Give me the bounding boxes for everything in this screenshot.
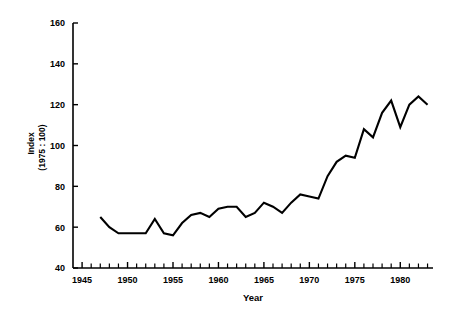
x-tick-label-1965: 1965 <box>254 275 274 285</box>
x-axis: 19451950195519601965197019751980 <box>72 262 433 285</box>
data-series-group <box>100 97 427 236</box>
x-tick-label-1955: 1955 <box>163 275 183 285</box>
x-tick-label-1970: 1970 <box>299 275 319 285</box>
x-tick-label-1950: 1950 <box>118 275 138 285</box>
x-tick-label-1975: 1975 <box>345 275 365 285</box>
y-axis: 406080100120140160 <box>50 18 78 273</box>
y-tick-label-160: 160 <box>50 18 65 28</box>
y-axis-title-line1: Index <box>26 132 36 154</box>
x-tick-label-1945: 1945 <box>72 275 92 285</box>
y-tick-label-80: 80 <box>55 182 65 192</box>
data-line-series-0 <box>100 97 427 236</box>
line-chart: 406080100120140160 194519501955196019651… <box>0 0 451 312</box>
y-tick-label-120: 120 <box>50 100 65 110</box>
y-tick-label-140: 140 <box>50 59 65 69</box>
x-tick-label-1960: 1960 <box>208 275 228 285</box>
y-axis-title-line2: (1975 : 100) <box>37 124 47 170</box>
y-tick-label-60: 60 <box>55 223 65 233</box>
chart-container: 406080100120140160 194519501955196019651… <box>0 0 451 312</box>
x-axis-title: Year <box>243 292 263 303</box>
y-tick-label-40: 40 <box>55 263 65 273</box>
x-tick-label-1980: 1980 <box>390 275 410 285</box>
y-tick-label-100: 100 <box>50 141 65 151</box>
